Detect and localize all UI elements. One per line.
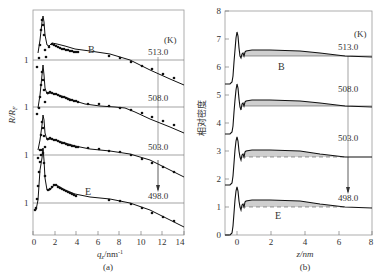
svg-text:4: 4 bbox=[75, 237, 80, 247]
density-profile-513 bbox=[225, 32, 372, 84]
x-axis-ticks-b bbox=[237, 231, 372, 235]
panel-a-reflectivity-chart: 1 1 1 1 B (K) 513.0 508.0 bbox=[7, 10, 185, 272]
svg-text:14: 14 bbox=[176, 237, 186, 247]
series-tag-E-b: E bbox=[275, 210, 281, 221]
svg-text:0: 0 bbox=[217, 230, 222, 240]
series-tag-E: E bbox=[85, 186, 91, 197]
temperature-label-508-b: 508.0 bbox=[338, 84, 359, 94]
svg-text:5: 5 bbox=[217, 90, 222, 100]
svg-text:0: 0 bbox=[32, 237, 37, 247]
svg-text:4: 4 bbox=[303, 237, 308, 247]
panel-caption-b: (b) bbox=[300, 262, 311, 272]
svg-text:8: 8 bbox=[217, 6, 222, 16]
ytick-label-1: 1 bbox=[24, 102, 29, 112]
y-axis-label-b: 相对密度 bbox=[196, 100, 207, 136]
y-axis-label-a: R/RF bbox=[7, 106, 18, 125]
unit-label-K-b: (K) bbox=[354, 29, 367, 39]
svg-text:0: 0 bbox=[235, 237, 240, 247]
svg-text:6: 6 bbox=[96, 237, 101, 247]
x-axis-label-a: qz/nm-1 bbox=[97, 249, 123, 260]
x-axis-tick-labels-a: 0 2 4 6 8 10 12 14 bbox=[32, 237, 185, 247]
y-axis-tick-labels-b: 0 1 2 3 4 5 6 7 8 bbox=[217, 6, 222, 240]
svg-text:2: 2 bbox=[217, 174, 222, 184]
series-tag-B-b: B bbox=[278, 61, 285, 72]
panel-b-density-chart: 0 1 2 3 4 5 6 7 8 0 2 4 6 8 B (K) bbox=[196, 6, 374, 272]
svg-text:8: 8 bbox=[369, 237, 374, 247]
temperature-label-503: 503.0 bbox=[148, 142, 169, 152]
svg-text:6: 6 bbox=[217, 62, 222, 72]
ytick-label-1: 1 bbox=[24, 198, 29, 208]
y-axis-ticks-b bbox=[225, 11, 229, 235]
svg-text:12: 12 bbox=[158, 237, 167, 247]
temperature-label-498-b: 498.0 bbox=[338, 193, 359, 203]
svg-text:7: 7 bbox=[217, 34, 222, 44]
temperature-label-513: 513.0 bbox=[148, 47, 169, 57]
unit-label-K: (K) bbox=[164, 35, 177, 45]
temperature-label-503-b: 503.0 bbox=[338, 133, 359, 143]
svg-text:2: 2 bbox=[269, 237, 274, 247]
svg-text:4: 4 bbox=[217, 118, 222, 128]
svg-text:10: 10 bbox=[137, 237, 147, 247]
x-axis-ticks-a bbox=[33, 231, 184, 235]
ytick-label-1: 1 bbox=[24, 55, 29, 65]
data-points-498 bbox=[34, 149, 176, 223]
svg-text:8: 8 bbox=[117, 237, 122, 247]
svg-text:3: 3 bbox=[217, 146, 222, 156]
density-profile-503 bbox=[225, 137, 372, 185]
svg-text:6: 6 bbox=[337, 237, 342, 247]
ytick-label-1: 1 bbox=[24, 150, 29, 160]
panel-caption-a: (a) bbox=[103, 262, 113, 272]
svg-text:2: 2 bbox=[53, 237, 58, 247]
temperature-label-508: 508.0 bbox=[148, 93, 169, 103]
svg-text:1: 1 bbox=[217, 202, 222, 212]
series-tag-B: B bbox=[88, 44, 95, 55]
x-axis-label-b: z/nm bbox=[295, 249, 314, 259]
x-axis-tick-labels-b: 0 2 4 6 8 bbox=[235, 237, 374, 247]
temperature-label-498: 498.0 bbox=[148, 191, 169, 201]
temperature-label-513-b: 513.0 bbox=[338, 42, 359, 52]
